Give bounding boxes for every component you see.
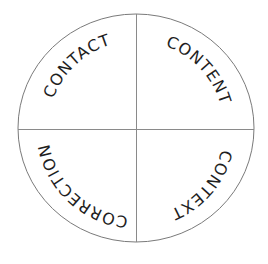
quadrant-label-contact: CONTACT	[39, 30, 113, 100]
contact-label-text: CONTACT	[39, 30, 113, 100]
quadrant-circle-diagram: CONTACT CONTENT CONTEXT CORRECTION	[0, 0, 268, 264]
quadrant-label-content: CONTENT	[164, 32, 235, 107]
quadrant-label-context: CONTEXT	[168, 148, 236, 224]
correction-label-text: CORRECTION	[34, 142, 129, 232]
quadrant-label-correction: CORRECTION	[34, 142, 129, 232]
context-label-text: CONTEXT	[168, 148, 236, 224]
content-label-text: CONTENT	[164, 32, 235, 107]
